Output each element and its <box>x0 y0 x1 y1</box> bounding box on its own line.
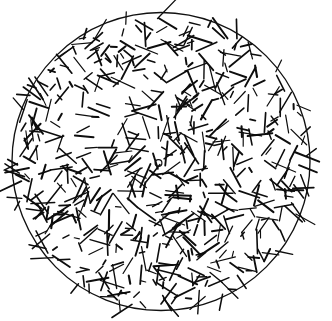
needle <box>265 161 276 169</box>
needle <box>126 228 132 229</box>
needle <box>57 78 61 89</box>
needle <box>163 217 185 225</box>
needle <box>299 165 317 172</box>
needle <box>223 50 224 67</box>
needle <box>142 91 153 101</box>
needle <box>293 188 314 189</box>
needle <box>124 50 132 57</box>
needle <box>113 193 129 213</box>
needle <box>225 215 243 220</box>
needle <box>280 230 285 241</box>
needle <box>157 27 167 33</box>
needle <box>190 196 191 202</box>
needle <box>121 54 124 59</box>
needle <box>107 231 108 255</box>
needle <box>123 258 133 274</box>
needle <box>162 199 171 212</box>
needle <box>88 107 109 116</box>
needle <box>226 194 236 202</box>
needle <box>254 80 265 85</box>
needle <box>236 108 244 115</box>
needle <box>174 197 191 199</box>
needle <box>279 207 282 221</box>
needle <box>232 79 246 86</box>
needle <box>191 249 192 255</box>
needle <box>253 88 257 96</box>
needle <box>242 220 252 233</box>
needle <box>199 54 213 71</box>
needle <box>153 265 178 267</box>
needle <box>198 243 219 257</box>
needle <box>165 141 167 165</box>
needle <box>225 63 228 72</box>
needle <box>21 123 26 131</box>
needle <box>53 247 57 250</box>
needle <box>146 33 150 40</box>
needle <box>250 209 255 217</box>
needle <box>76 270 87 273</box>
needle <box>256 219 259 230</box>
needle <box>149 263 152 271</box>
needle <box>189 22 200 25</box>
needle <box>190 116 192 126</box>
needle <box>230 72 246 78</box>
needle <box>237 158 252 164</box>
needle <box>220 250 227 258</box>
needle <box>160 220 165 234</box>
needle <box>133 69 145 71</box>
needle <box>232 251 233 256</box>
needle <box>110 222 122 243</box>
needle <box>163 296 172 311</box>
needle <box>255 66 257 77</box>
needle <box>248 95 249 112</box>
needle <box>225 226 233 242</box>
needle <box>139 252 144 253</box>
needle <box>186 298 192 299</box>
needle <box>138 207 156 220</box>
needle <box>25 174 30 179</box>
needle <box>132 215 136 228</box>
needle <box>75 136 94 138</box>
needle <box>55 171 62 181</box>
needle <box>212 230 223 231</box>
needle <box>249 168 252 172</box>
needle <box>150 193 161 199</box>
needle <box>77 126 89 132</box>
random-needle-figure <box>0 0 332 321</box>
needle <box>188 63 192 67</box>
needle <box>234 92 245 104</box>
needle <box>213 28 225 38</box>
needle <box>168 71 187 82</box>
needle <box>211 257 236 263</box>
needle <box>214 144 222 146</box>
needle <box>205 235 217 244</box>
needle <box>218 225 221 242</box>
needle <box>237 168 245 176</box>
needle <box>95 76 100 91</box>
needle <box>207 130 213 132</box>
needle <box>203 192 205 197</box>
needle <box>158 270 181 276</box>
needle <box>144 75 148 79</box>
needle <box>307 149 317 156</box>
needle <box>165 195 191 196</box>
needle <box>0 181 21 191</box>
needle <box>127 198 137 207</box>
needle <box>158 0 176 18</box>
needle <box>151 91 161 93</box>
needle <box>118 191 143 192</box>
needle <box>71 179 76 187</box>
needle <box>103 260 106 264</box>
needle <box>223 147 227 151</box>
needle <box>77 153 91 158</box>
needle <box>210 273 222 283</box>
needle <box>67 164 68 183</box>
needle <box>90 43 103 50</box>
needle <box>98 229 112 235</box>
needle <box>128 131 138 135</box>
needle <box>70 82 73 87</box>
needle <box>132 60 133 65</box>
needle <box>164 133 176 135</box>
needle <box>112 140 114 146</box>
needle <box>187 41 193 43</box>
